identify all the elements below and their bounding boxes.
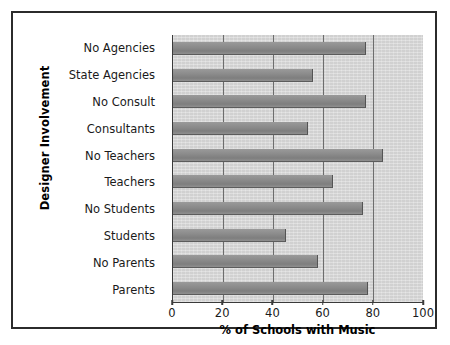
bar [173,149,383,162]
y-axis-tick-label: State Agencies [37,62,160,89]
y-axis-tick-mark [172,208,173,210]
x-axis-tick-label: 20 [215,306,230,320]
x-axis-title: % of Schools with Music [172,323,423,337]
bar-row [173,169,423,196]
bar [173,122,308,135]
bar [173,255,318,268]
y-axis-tick-mark [172,74,173,76]
y-axis-tick-mark [172,235,173,237]
x-axis-tick-mark [422,300,424,305]
bar [173,95,366,108]
bar-row [173,142,423,169]
y-axis-tick-label: No Teachers [37,142,160,169]
bar-row [173,249,423,276]
bar [173,69,313,82]
x-axis-tick-mark [372,300,374,305]
y-axis-tick-mark [172,261,173,263]
y-axis-tick-label-list: No AgenciesState AgenciesNo ConsultConsu… [37,35,160,303]
y-axis-tick-label: Teachers [37,169,160,196]
x-axis-tick-label: 0 [168,306,175,320]
bar [173,229,286,242]
y-axis-tick-label: Parents [37,276,160,303]
bar [173,42,366,55]
y-axis-tick-mark [172,48,173,50]
x-axis-tick-label: 60 [315,306,330,320]
x-axis-tick-label: 100 [412,306,434,320]
y-axis-tick-label: No Parents [37,249,160,276]
x-axis-tick-mark [221,300,223,305]
y-axis-tick-label: No Students [37,196,160,223]
x-axis-tick-label-list: 020406080100 [172,306,423,322]
bar-row [173,115,423,142]
bars-layer [173,35,423,302]
y-axis-tick-mark [172,288,173,290]
y-axis-tick-label: Consultants [37,115,160,142]
x-axis-tick-label: 40 [265,306,280,320]
bar-row [173,62,423,89]
bar [173,202,363,215]
x-axis-tick-mark [171,300,173,305]
y-axis-tick-mark [172,154,173,156]
plot-area [172,35,423,303]
x-axis-tick-mark [272,300,274,305]
x-axis-tick-mark [322,300,324,305]
y-axis-tick-mark [172,128,173,130]
y-axis-tick-label: No Agencies [37,35,160,62]
bar-row [173,275,423,302]
bar-row [173,35,423,62]
x-axis-tick-label: 80 [365,306,380,320]
y-axis-tick-label: Students [37,223,160,250]
y-axis-tick-label: No Consult [37,89,160,116]
bar-row [173,222,423,249]
y-axis-tick-mark [172,181,173,183]
bar [173,282,368,295]
y-axis-tick-mark [172,101,173,103]
bar-row [173,195,423,222]
bar [173,175,333,188]
bar-row [173,88,423,115]
chart-figure-frame: Designer Involvement No AgenciesState Ag… [11,11,437,329]
